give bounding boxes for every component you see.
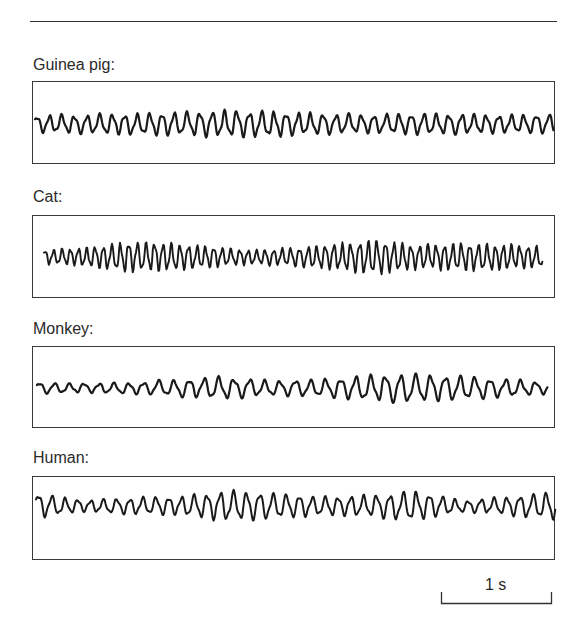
eeg-panel-guinea-pig xyxy=(32,81,555,164)
eeg-panel-cat xyxy=(32,215,555,298)
eeg-panel-human xyxy=(32,476,555,560)
panel-label-human: Human: xyxy=(33,449,89,467)
top-divider xyxy=(30,21,557,22)
scale-bar-label: 1 s xyxy=(485,576,506,594)
panel-label-guinea-pig: Guinea pig: xyxy=(33,56,115,74)
eeg-panel-monkey xyxy=(32,346,555,428)
panel-label-cat: Cat: xyxy=(33,188,62,206)
panel-label-monkey: Monkey: xyxy=(33,320,93,338)
